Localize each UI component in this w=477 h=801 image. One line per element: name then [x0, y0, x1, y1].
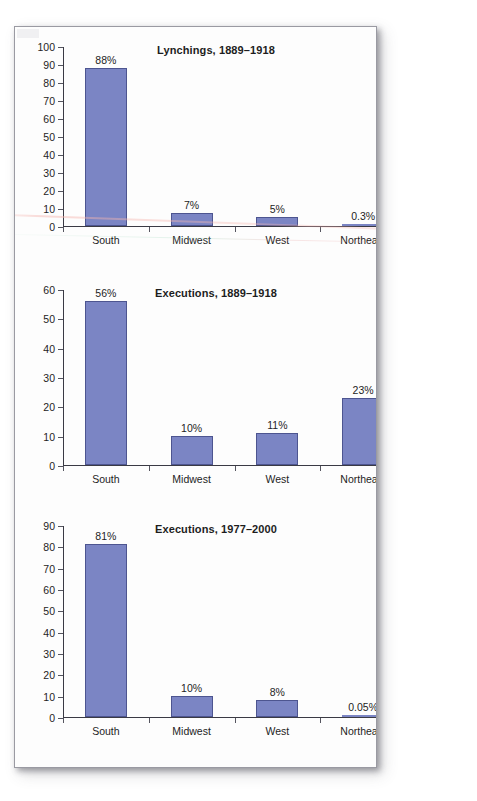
- y-axis-tick-label: 20: [43, 401, 55, 413]
- x-axis-tick: [63, 466, 64, 471]
- y-axis-tick: [58, 590, 63, 591]
- y-axis-tick-label: 70: [43, 95, 55, 107]
- scanned-page: Lynchings, 1889–1918 0102030405060708090…: [14, 26, 377, 768]
- x-axis-line: [63, 465, 377, 466]
- x-axis-line: [63, 226, 377, 227]
- y-axis-tick: [58, 319, 63, 320]
- y-axis-tick-label: 40: [43, 627, 55, 639]
- chart-executions-1889-1918: Executions, 1889–1918 010203040506056%So…: [15, 274, 377, 510]
- y-axis-tick-label: 0: [49, 221, 55, 233]
- x-axis-tick: [235, 718, 236, 723]
- y-axis-tick: [58, 137, 63, 138]
- bar-value-label: 5%: [270, 203, 285, 215]
- y-axis-tick: [58, 654, 63, 655]
- x-axis-tick: [320, 227, 321, 232]
- x-axis-category-label: Midwest: [172, 473, 211, 485]
- x-axis-category-label: Northeast: [340, 234, 377, 246]
- bar: [85, 301, 127, 465]
- bar: [171, 696, 213, 717]
- y-axis-line: [63, 47, 64, 227]
- y-axis-tick-label: 100: [37, 41, 55, 53]
- y-axis-tick-label: 30: [43, 167, 55, 179]
- x-axis-category-label: Midwest: [172, 725, 211, 737]
- y-axis-tick-label: 30: [43, 648, 55, 660]
- y-axis-tick: [58, 155, 63, 156]
- y-axis-tick: [58, 290, 63, 291]
- bar-value-label: 10%: [181, 422, 202, 434]
- y-axis-tick-label: 0: [49, 460, 55, 472]
- y-axis-tick: [58, 437, 63, 438]
- y-axis-tick: [58, 547, 63, 548]
- bar-value-label: 0.3%: [351, 210, 375, 222]
- bar-value-label: 10%: [181, 682, 202, 694]
- y-axis-tick: [58, 675, 63, 676]
- y-axis-tick-label: 60: [43, 113, 55, 125]
- y-axis-tick: [58, 407, 63, 408]
- x-axis-tick: [149, 227, 150, 232]
- bar-value-label: 56%: [95, 287, 116, 299]
- x-axis-line: [63, 717, 377, 718]
- y-axis-tick-label: 60: [43, 284, 55, 296]
- bar-value-label: 0.05%: [348, 701, 377, 713]
- x-axis-category-label: South: [92, 473, 119, 485]
- x-axis-category-label: West: [266, 234, 290, 246]
- y-axis-tick: [58, 378, 63, 379]
- plot-area: 010203040506070809010088%South7%Midwest5…: [63, 47, 377, 227]
- x-axis-tick: [63, 227, 64, 232]
- y-axis-tick: [58, 526, 63, 527]
- y-axis-tick: [58, 47, 63, 48]
- y-axis-line: [63, 290, 64, 466]
- bar: [256, 433, 298, 465]
- y-axis-tick-label: 20: [43, 669, 55, 681]
- x-axis-tick: [63, 718, 64, 723]
- x-axis-category-label: Northeast: [340, 473, 377, 485]
- x-axis-tick: [235, 227, 236, 232]
- y-axis-tick-label: 90: [43, 520, 55, 532]
- x-axis-tick: [320, 718, 321, 723]
- x-axis-category-label: Northeast: [340, 725, 377, 737]
- y-axis-tick: [58, 191, 63, 192]
- y-axis-tick: [58, 611, 63, 612]
- x-axis-category-label: South: [92, 725, 119, 737]
- y-axis-tick-label: 40: [43, 343, 55, 355]
- x-axis-category-label: Midwest: [172, 234, 211, 246]
- bar: [171, 213, 213, 226]
- bar-value-label: 11%: [267, 419, 287, 431]
- y-axis-tick: [58, 209, 63, 210]
- y-axis-tick-label: 50: [43, 605, 55, 617]
- y-axis-tick-label: 30: [43, 372, 55, 384]
- x-axis-category-label: West: [266, 725, 290, 737]
- plot-area: 010203040506070809081%South10%Midwest8%W…: [63, 526, 377, 718]
- bar-value-label: 23%: [353, 384, 374, 396]
- bar: [342, 398, 377, 465]
- y-axis-tick: [58, 569, 63, 570]
- bar-value-label: 81%: [95, 530, 116, 542]
- y-axis-tick: [58, 349, 63, 350]
- plot-area: 010203040506056%South10%Midwest11%West23…: [63, 290, 377, 466]
- y-axis-tick: [58, 83, 63, 84]
- y-axis-tick-label: 80: [43, 77, 55, 89]
- y-axis-tick: [58, 633, 63, 634]
- x-axis-tick: [320, 466, 321, 471]
- y-axis-tick-label: 10: [43, 431, 55, 443]
- y-axis-tick: [58, 697, 63, 698]
- bar: [85, 68, 127, 226]
- bar: [256, 217, 298, 226]
- bar: [256, 700, 298, 717]
- bar-value-label: 8%: [270, 686, 285, 698]
- chart-lynchings-1889-1918: Lynchings, 1889–1918 0102030405060708090…: [15, 27, 377, 274]
- y-axis-tick-label: 10: [43, 691, 55, 703]
- y-axis-tick-label: 0: [49, 712, 55, 724]
- y-axis-tick-label: 80: [43, 541, 55, 553]
- x-axis-tick: [149, 718, 150, 723]
- y-axis-tick: [58, 101, 63, 102]
- bar: [342, 224, 377, 226]
- bar: [85, 544, 127, 717]
- y-axis-tick: [58, 65, 63, 66]
- y-axis-tick-label: 10: [43, 203, 55, 215]
- chart-executions-1977-2000: Executions, 1977–2000 010203040506070809…: [15, 510, 377, 760]
- x-axis-tick: [149, 466, 150, 471]
- y-axis-tick-label: 20: [43, 185, 55, 197]
- y-axis-tick-label: 40: [43, 149, 55, 161]
- y-axis-tick-label: 60: [43, 584, 55, 596]
